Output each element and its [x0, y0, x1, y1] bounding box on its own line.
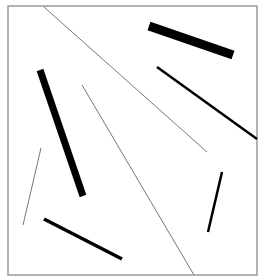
background — [0, 0, 265, 280]
line-segments-diagram — [0, 0, 265, 280]
